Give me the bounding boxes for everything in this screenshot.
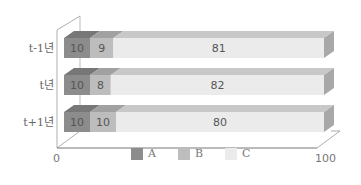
legend-swatch-c — [225, 148, 237, 160]
bar-top-2-2 — [116, 105, 334, 112]
legend-item-b: B — [178, 147, 203, 160]
x-tick-100: 100 — [315, 152, 336, 165]
data-label: 8 — [97, 79, 104, 92]
category-label-t-plus-1: t+1년 — [6, 113, 54, 129]
legend: A B C — [131, 147, 250, 160]
data-label: 9 — [98, 42, 105, 55]
data-label: 81 — [212, 42, 226, 55]
floor-right-corner — [317, 131, 340, 148]
bar-top-2-0 — [113, 31, 334, 38]
category-label-t: t년 — [6, 76, 54, 92]
legend-item-a: A — [131, 147, 156, 160]
data-label: 10 — [96, 116, 110, 129]
data-label: 10 — [70, 116, 84, 129]
legend-label-c: C — [242, 147, 250, 160]
data-label: 10 — [70, 79, 84, 92]
bar-top-2-1 — [111, 68, 334, 75]
legend-swatch-a — [131, 148, 143, 160]
x-tick-0: 0 — [53, 152, 60, 165]
legend-label-b: B — [195, 147, 203, 160]
frame-top-left-diagonal — [57, 16, 80, 30]
data-label: 82 — [210, 79, 224, 92]
floor-left-diagonal — [57, 131, 80, 148]
legend-item-c: C — [225, 147, 250, 160]
data-label: 80 — [213, 116, 227, 129]
legend-swatch-b — [178, 148, 190, 160]
data-label: 10 — [70, 42, 84, 55]
category-label-t-minus-1: t-1년 — [6, 39, 54, 55]
legend-label-a: A — [148, 147, 156, 160]
